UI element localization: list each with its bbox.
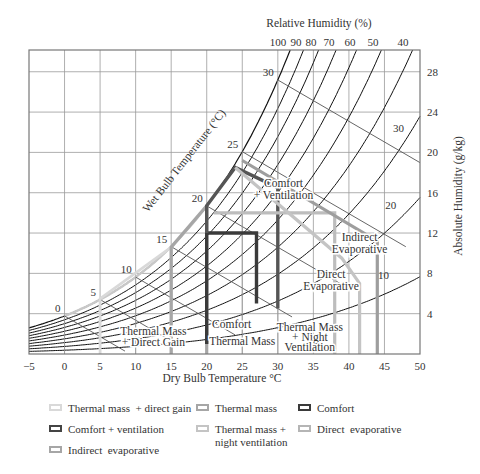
wet-bulb-label: 0 xyxy=(55,302,61,314)
rh-top-label: 50 xyxy=(368,36,380,48)
y-tick-label: 28 xyxy=(427,66,439,78)
grid xyxy=(29,50,420,354)
rh-top-label: 40 xyxy=(398,36,410,48)
y-tick-label: 12 xyxy=(427,227,438,239)
zone-annotation: Direct xyxy=(317,268,347,280)
wet-bulb-label: 15 xyxy=(156,233,168,245)
rh-top-label: 90 xyxy=(291,36,303,48)
zone-annotation: Ventilation xyxy=(285,341,336,353)
wet-bulb-label: 10 xyxy=(121,263,133,275)
x-tick-label: 30 xyxy=(272,360,284,372)
wet-bulb-label: 5 xyxy=(91,286,97,298)
wet-bulb-axis-title: Wet Bulb Temperature (°C) xyxy=(140,107,228,215)
rh-top-label: 60 xyxy=(345,36,357,48)
psychrometric-chart: −505101520253035404550481216202428100908… xyxy=(0,0,480,474)
x-tick-label: 35 xyxy=(308,360,320,372)
zone-annotation: Indirect xyxy=(342,231,379,243)
x-tick-label: 0 xyxy=(62,360,68,372)
zone-annotation: + Ventilation xyxy=(254,189,314,201)
x-tick-label: 15 xyxy=(166,360,178,372)
x-tick-label: 5 xyxy=(97,360,103,372)
y-tick-label: 16 xyxy=(427,187,439,199)
zone-annotation: Comfort xyxy=(264,177,304,189)
zone-annotation: + Direct Gain xyxy=(122,336,186,348)
x-tick-label: 10 xyxy=(130,360,142,372)
y-tick-label: 8 xyxy=(427,267,433,279)
zone-annotation: Evaporative xyxy=(303,280,359,293)
wet-bulb-label: 25 xyxy=(227,138,239,150)
zone-annotation: Thermal Mass xyxy=(209,335,276,347)
zone-annotation: Comfort xyxy=(212,318,252,330)
x-axis-title: Dry Bulb Temperature °C xyxy=(163,372,282,385)
x-tick-label: 25 xyxy=(237,360,249,372)
rh-curve-40 xyxy=(29,50,413,344)
x-tick-label: 45 xyxy=(379,360,391,372)
wet-bulb-label: 20 xyxy=(192,192,204,204)
x-tick-label: 40 xyxy=(343,360,355,372)
wet-bulb-label: 30 xyxy=(263,66,275,78)
wet-bulb-line xyxy=(171,247,292,317)
y-tick-label: 4 xyxy=(427,308,433,320)
x-tick-label: −5 xyxy=(23,360,35,372)
rh-inner-label: 10 xyxy=(378,269,390,281)
y-tick-label: 20 xyxy=(427,146,439,158)
zone-annotation: Evaporative xyxy=(332,243,388,256)
rh-inner-label: 20 xyxy=(385,199,397,211)
rh-top-label: 70 xyxy=(324,36,336,48)
rh-curves xyxy=(29,50,420,351)
rh-inner-label: 30 xyxy=(393,122,405,134)
rh-top-label: 80 xyxy=(306,36,318,48)
plot-frame xyxy=(29,50,420,354)
x-tick-label: 20 xyxy=(201,360,213,372)
y-tick-label: 24 xyxy=(427,106,439,118)
rh-top-label: 100 xyxy=(270,36,287,48)
x-tick-label: 50 xyxy=(415,360,427,372)
y-axis-title: Absolute Humidity (g/kg) xyxy=(452,136,465,256)
top-axis-title: Relative Humidity (%) xyxy=(266,17,372,30)
